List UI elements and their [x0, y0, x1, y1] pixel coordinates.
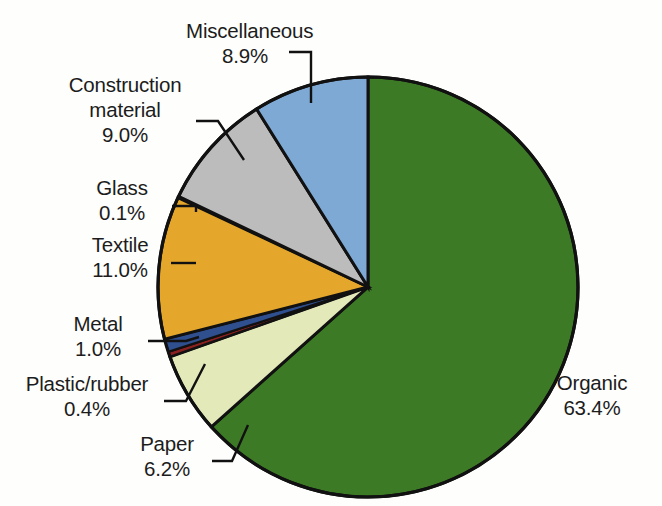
label-textile: Textile 11.0% [72, 232, 168, 282]
label-organic-value: 63.4% [540, 395, 644, 420]
label-construction-material-name-line2: material [58, 97, 192, 122]
pie-slices [158, 77, 578, 497]
label-paper: Paper 6.2% [124, 431, 210, 481]
label-glass-value: 0.1% [76, 200, 168, 225]
label-metal-value: 1.0% [52, 336, 144, 361]
label-plastic-rubber: Plastic/rubber 0.4% [11, 371, 163, 421]
label-glass-name: Glass [76, 175, 168, 200]
label-textile-name: Textile [72, 232, 168, 257]
pie-chart-figure: Miscellaneous 8.9% Construction material… [0, 0, 662, 506]
label-paper-value: 6.2% [124, 456, 210, 481]
label-construction-material: Construction material 9.0% [58, 72, 192, 147]
label-metal-name: Metal [52, 311, 144, 336]
label-organic: Organic 63.4% [540, 370, 644, 420]
label-plastic-rubber-value: 0.4% [11, 396, 163, 421]
label-miscellaneous-value: 8.9% [186, 43, 304, 68]
label-glass: Glass 0.1% [76, 175, 168, 225]
label-metal: Metal 1.0% [52, 311, 144, 361]
label-plastic-rubber-name: Plastic/rubber [11, 371, 163, 396]
label-miscellaneous-name: Miscellaneous [186, 18, 304, 43]
label-construction-material-name-line1: Construction [58, 72, 192, 97]
label-construction-material-value: 9.0% [58, 122, 192, 147]
label-textile-value: 11.0% [72, 257, 168, 282]
label-paper-name: Paper [124, 431, 210, 456]
label-miscellaneous: Miscellaneous 8.9% [186, 18, 304, 68]
label-organic-name: Organic [540, 370, 644, 395]
